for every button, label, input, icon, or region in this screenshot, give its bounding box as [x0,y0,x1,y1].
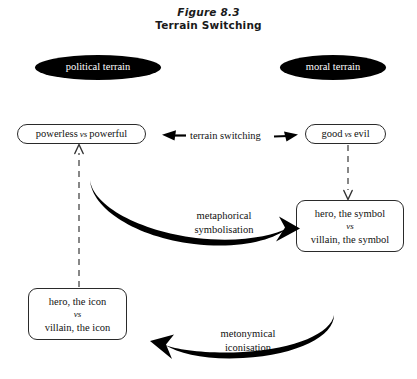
terrain-ellipse-political: political terrain [35,55,161,80]
edge-label-line1: metaphorical [176,209,272,223]
edge-label-line1: metonymical [196,327,300,341]
arrow-shaft-right [274,136,288,137]
arrowhead-up-icon [75,145,83,154]
edge-label-line2: symbolisation [176,223,272,237]
edge-label-metonymical-iconisation: metonymical iconisation [196,327,300,355]
figure-number: Figure 8.3 [0,6,417,19]
edge-label-metaphorical-symbolisation: metaphorical symbolisation [176,209,272,237]
figure-caption: Terrain Switching [0,19,417,32]
node-term-right: powerful [89,128,127,139]
terrain-label-political: political terrain [66,62,130,73]
node-box-hero-villain-symbol: hero, the symbol vs villain, the symbol [296,200,404,252]
figure-title: Figure 8.3 Terrain Switching [0,6,417,32]
edge-label-terrain-switching: terrain switching [190,129,261,143]
terrain-ellipse-moral: moral terrain [280,55,386,80]
arrowhead-metonymical [150,335,174,360]
node-vs: vs [342,129,354,139]
node-term-left: powerless [36,128,78,139]
arrow-terrain-switching-right [274,131,298,141]
node-line-villain-icon: villain, the icon [45,321,111,334]
node-line-hero-icon: hero, the icon [49,295,106,308]
terrain-label-moral: moral terrain [306,62,361,73]
arrowhead-down-symbol [344,191,352,200]
arrowhead-right-terrain [284,131,298,141]
node-vs: vs [346,220,354,233]
arrowhead-left-terrain [162,130,176,140]
figure-terrain-switching: Figure 8.3 Terrain Switching political t… [0,0,417,379]
dashed-arrow-good-to-symbol [344,145,352,200]
dashed-arrow-icon-to-powerless [75,145,83,288]
node-box-good-vs-evil: goodvsevil [305,124,386,144]
node-box-powerless-vs-powerful: powerlessvspowerful [17,124,146,144]
node-line-villain-symbol: villain, the symbol [311,233,389,246]
node-vs: vs [74,308,82,321]
arrow-terrain-switching-left [162,130,186,140]
node-term-left: good [321,128,342,139]
node-term-right: evil [354,128,370,139]
node-text-powerless: powerlessvspowerful [36,127,127,141]
node-text-good: goodvsevil [321,127,369,141]
node-line-hero-symbol: hero, the symbol [315,207,385,220]
node-box-hero-villain-icon: hero, the icon vs villain, the icon [28,288,127,340]
edge-label-line2: iconisation [196,341,300,355]
node-vs: vs [78,129,90,139]
